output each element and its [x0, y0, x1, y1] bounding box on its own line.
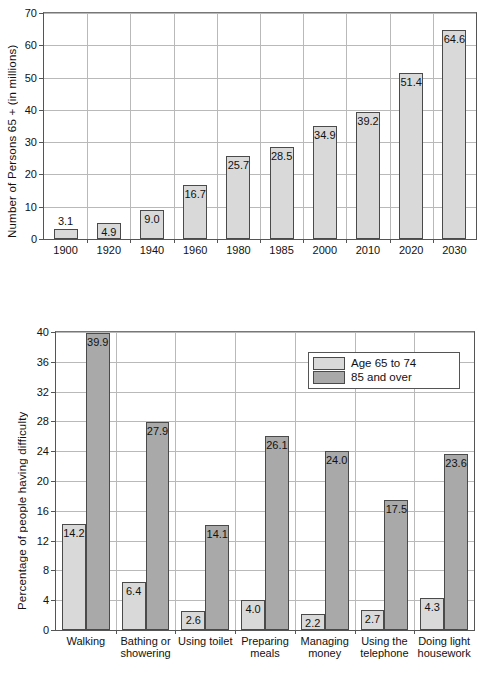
y-axis-tick-mark [39, 207, 43, 208]
bar: 14.1 [205, 525, 229, 630]
bar: 34.9 [313, 126, 337, 239]
y-axis-tick-label: 10 [15, 202, 37, 213]
y-axis-tick-label: 12 [27, 536, 49, 547]
x-axis-tick-label: Managing money [295, 635, 355, 659]
x-axis-tick-mark [87, 239, 88, 243]
y-axis-tick-label: 70 [15, 8, 37, 19]
bar-value-label: 39.2 [357, 116, 378, 127]
x-axis-tick-mark [355, 630, 356, 634]
x-axis-tick-mark [414, 630, 415, 634]
bar: 64.6 [442, 30, 466, 239]
bar-value-label: 14.2 [63, 528, 84, 539]
bar: 17.5 [384, 500, 408, 630]
y-axis-tick-label: 40 [15, 105, 37, 116]
bar-value-label: 6.4 [126, 586, 141, 597]
bar: 6.4 [122, 582, 146, 630]
y-axis-tick-label: 0 [15, 234, 37, 245]
x-axis-tick-label: Walking [56, 635, 116, 647]
y-axis-tick-label: 20 [27, 476, 49, 487]
category-divider [295, 332, 296, 630]
bar: 26.1 [265, 436, 289, 630]
bar: 16.7 [183, 185, 207, 239]
y-axis-tick-mark [39, 78, 43, 79]
y-axis-tick-mark [51, 630, 55, 631]
category-divider [260, 13, 261, 239]
y-axis-tick-mark [51, 332, 55, 333]
y-axis-tick-label: 0 [27, 625, 49, 636]
bar-value-label: 24.0 [326, 455, 347, 466]
x-axis-tick-mark [260, 239, 261, 243]
y-axis-tick-mark [51, 362, 55, 363]
bar-value-label: 64.6 [444, 34, 465, 45]
bar: 4.0 [241, 600, 265, 630]
x-axis-tick-mark [303, 239, 304, 243]
legend-item: Age 65 to 74 [313, 357, 454, 370]
y-axis-tick-label: 40 [27, 327, 49, 338]
legend-swatch [313, 357, 345, 370]
x-axis-tick-mark [116, 630, 117, 634]
bar: 51.4 [399, 73, 423, 239]
bar-value-label: 16.7 [184, 189, 205, 200]
chart1-plot-area: 3.14.99.016.725.728.534.939.251.464.6 [43, 12, 477, 240]
y-axis-tick-label: 30 [15, 137, 37, 148]
bar-value-label: 26.1 [266, 440, 287, 451]
bar-value-label: 9.0 [144, 214, 159, 225]
bar-value-label: 27.9 [147, 426, 168, 437]
category-divider [174, 13, 175, 239]
bar-value-label: 34.9 [314, 130, 335, 141]
y-axis-tick-mark [39, 13, 43, 14]
bar: 2.2 [301, 614, 325, 630]
x-axis-tick-label: 2030 [433, 244, 476, 256]
x-axis-tick-mark [433, 239, 434, 243]
x-axis-tick-mark [130, 239, 131, 243]
bar: 14.2 [62, 524, 86, 630]
y-axis-tick-label: 32 [27, 387, 49, 398]
bar: 3.1 [54, 229, 78, 239]
bar-value-label: 14.1 [207, 529, 228, 540]
y-axis-tick-label: 50 [15, 73, 37, 84]
y-axis-tick-label: 24 [27, 446, 49, 457]
x-axis-tick-label: Preparing meals [235, 635, 295, 659]
x-axis-tick-label: Doing light housework [414, 635, 474, 659]
x-axis-tick-label: 1960 [174, 244, 217, 256]
y-axis-tick-label: 20 [15, 169, 37, 180]
y-axis-tick-label: 16 [27, 506, 49, 517]
bar: 4.9 [97, 223, 121, 239]
bar: 39.9 [86, 333, 110, 630]
bar: 9.0 [140, 210, 164, 239]
x-axis-tick-label: Bathing or showering [116, 635, 176, 659]
bar: 27.9 [146, 422, 170, 630]
x-axis-tick-mark [235, 630, 236, 634]
gridline [56, 421, 474, 422]
bar-value-label: 39.9 [87, 337, 108, 348]
bar: 28.5 [270, 147, 294, 239]
category-divider [433, 13, 434, 239]
bar-value-label: 2.7 [365, 614, 380, 625]
bar: 4.3 [420, 598, 444, 630]
chart2-legend: Age 65 to 7485 and over [308, 352, 460, 389]
x-axis-tick-label: 2010 [346, 244, 389, 256]
x-axis-tick-label: 1985 [260, 244, 303, 256]
x-axis-tick-label: 2000 [303, 244, 346, 256]
bar: 25.7 [226, 156, 250, 239]
category-divider [235, 332, 236, 630]
x-axis-tick-label: Using toilet [175, 635, 235, 647]
y-axis-tick-mark [39, 142, 43, 143]
bar: 23.6 [444, 454, 468, 630]
bar-value-label: 23.6 [445, 458, 466, 469]
gridline [56, 332, 474, 333]
y-axis-tick-mark [51, 421, 55, 422]
bar-value-label: 4.3 [425, 602, 440, 613]
bar-value-label: 25.7 [228, 160, 249, 171]
x-axis-tick-label: 1980 [217, 244, 260, 256]
y-axis-tick-mark [51, 511, 55, 512]
bar-value-label: 28.5 [271, 151, 292, 162]
y-axis-tick-label: 8 [27, 565, 49, 576]
bar-value-label: 4.9 [101, 227, 116, 238]
gridline [56, 392, 474, 393]
category-divider [390, 13, 391, 239]
x-axis-tick-label: 2020 [390, 244, 433, 256]
legend-label: Age 65 to 74 [351, 358, 416, 369]
bar-value-label: 2.2 [305, 618, 320, 629]
bar-value-label: 4.0 [245, 604, 260, 615]
